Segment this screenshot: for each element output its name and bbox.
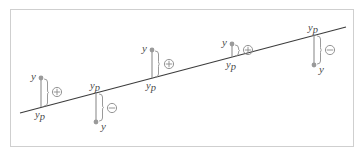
residual-group: yyp bbox=[30, 70, 61, 122]
observed-value-label: y bbox=[141, 42, 147, 54]
residual-group: yyp bbox=[89, 80, 117, 132]
predicted-value-subscript: p bbox=[94, 82, 100, 93]
residual-brace bbox=[100, 94, 104, 121]
predicted-value-subscript: p bbox=[150, 82, 156, 93]
observed-point-marker bbox=[94, 120, 99, 125]
observed-point-marker bbox=[150, 48, 155, 53]
residual-brace bbox=[45, 79, 49, 106]
predicted-value-subscript: p bbox=[312, 24, 318, 35]
observed-value-label: y bbox=[318, 63, 324, 75]
predicted-value-label: yp bbox=[225, 59, 236, 72]
observed-value-label: y bbox=[30, 70, 36, 82]
predicted-value-subscript: p bbox=[39, 111, 45, 122]
residual-group: yyp bbox=[307, 22, 335, 75]
residual-group: yyp bbox=[141, 42, 173, 93]
residual-brace bbox=[318, 36, 322, 64]
regression-residuals-figure: yypyypyypyypyyp bbox=[0, 0, 364, 157]
data-points-layer: yypyypyypyypyyp bbox=[30, 22, 334, 132]
observed-point-marker bbox=[230, 42, 235, 47]
predicted-value-subscript: p bbox=[230, 61, 236, 72]
predicted-value-label: yp bbox=[34, 109, 45, 122]
residual-group: yyp bbox=[221, 36, 252, 72]
observed-value-label: y bbox=[221, 36, 227, 48]
observed-value-label: y bbox=[100, 120, 106, 132]
predicted-value-label: yp bbox=[307, 22, 318, 35]
residual-plot-canvas: yypyypyypyypyyp bbox=[0, 0, 364, 157]
observed-point-marker bbox=[39, 76, 44, 81]
observed-point-marker bbox=[312, 63, 317, 68]
residual-brace bbox=[236, 45, 240, 56]
regression-line bbox=[20, 27, 346, 113]
predicted-value-label: yp bbox=[89, 80, 100, 93]
residual-brace bbox=[156, 51, 160, 77]
predicted-value-label: yp bbox=[145, 80, 156, 93]
